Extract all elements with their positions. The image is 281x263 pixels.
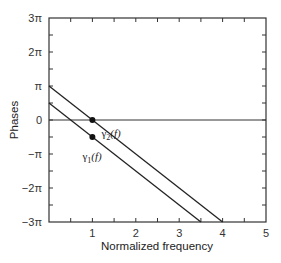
series-label-gamma1: γ1(f) [81, 150, 102, 165]
x-tick-label: 2 [133, 227, 139, 239]
y-tick-label: 0 [36, 114, 42, 126]
y-tick-label: 2π [28, 46, 42, 58]
data-point-marker [89, 117, 95, 123]
x-tick-label: 5 [263, 227, 269, 239]
x-tick-label: 4 [220, 227, 226, 239]
x-axis-title: Normalized frequency [101, 240, 213, 252]
series-line-gamma2 [49, 86, 223, 222]
y-tick-label: −2π [22, 182, 43, 194]
y-axis-title: Phases [8, 101, 20, 140]
series-line-gamma1 [49, 103, 201, 222]
data-point-marker [89, 134, 95, 140]
x-tick-label: 3 [176, 227, 182, 239]
y-tick-label: 3π [28, 12, 42, 24]
series [49, 86, 223, 222]
y-tick-label: π [34, 80, 42, 92]
labels: 123453π2ππ0−π−2π−3πγ2(f)γ1(f) [22, 12, 269, 239]
x-tick-label: 1 [89, 227, 95, 239]
y-tick-label: −π [28, 148, 42, 160]
phase-chart: 123453π2ππ0−π−2π−3πγ2(f)γ1(f) Phases Nor… [0, 0, 281, 263]
y-tick-label: −3π [22, 216, 43, 228]
